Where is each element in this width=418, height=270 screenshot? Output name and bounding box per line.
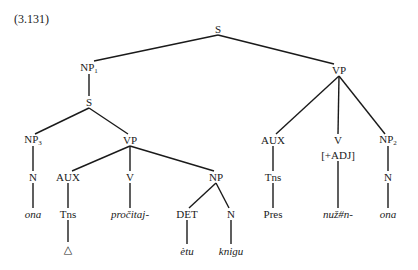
- tree-edge: [94, 35, 218, 61]
- tree-edge: [339, 76, 385, 134]
- node-vp-emb: VP: [123, 135, 137, 146]
- node-np3: NP3: [24, 134, 42, 147]
- node-tns-left: Tns: [60, 209, 77, 220]
- node-nuzn: nuž#n-: [323, 209, 353, 220]
- tree-edge: [216, 183, 229, 208]
- node-v-left: V: [126, 172, 134, 183]
- tree-edge: [276, 76, 339, 134]
- node-delta: △: [64, 244, 72, 255]
- node-v-right: V: [334, 135, 342, 146]
- node-n-obj: N: [227, 209, 235, 220]
- node-ona-left: ona: [25, 209, 42, 220]
- node-s-emb: S: [86, 97, 92, 108]
- tree-edge: [218, 35, 334, 64]
- node-np-obj: NP: [209, 172, 223, 183]
- node-np2: NP2: [379, 134, 397, 147]
- node-vp-main: VP: [332, 65, 346, 76]
- node-adj-feature: [+ADJ]: [321, 150, 355, 161]
- tree-edge: [189, 183, 216, 208]
- node-n-left: N: [29, 172, 37, 183]
- node-pres: Pres: [264, 209, 283, 220]
- node-n-right: N: [384, 172, 392, 183]
- tree-edge: [35, 108, 89, 134]
- node-etu: ètu: [180, 246, 193, 257]
- tree-edge: [338, 76, 339, 134]
- node-det: DET: [176, 209, 197, 220]
- tree-edge: [72, 146, 130, 171]
- node-aux-left: AUX: [56, 172, 80, 183]
- node-procitaj: pročitaj-: [111, 209, 149, 220]
- node-knigu: knigu: [219, 246, 243, 257]
- tree-edge: [89, 108, 128, 134]
- node-s-root: S: [215, 24, 221, 35]
- tree-edge: [130, 146, 214, 171]
- node-aux-right: AUX: [261, 135, 285, 146]
- node-tns-right: Tns: [265, 172, 282, 183]
- syntax-tree-edges: [0, 0, 418, 270]
- node-np1: NP1: [80, 62, 98, 75]
- node-ona-right: ona: [380, 209, 397, 220]
